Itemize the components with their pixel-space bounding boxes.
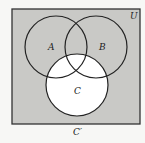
label-u: U [130,11,138,21]
label-b: B [98,42,106,52]
label-a: A [47,42,55,52]
venn-diagram: U A B C C′ [0,0,145,143]
label-c: C [74,86,81,96]
caption-c-complement: C′ [73,127,82,137]
